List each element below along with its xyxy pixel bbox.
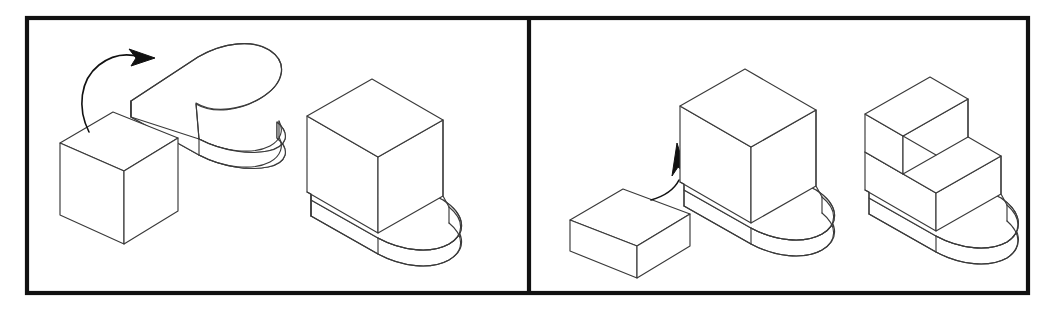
- diagram-svg: [0, 0, 1053, 311]
- figure-canvas: [0, 0, 1053, 311]
